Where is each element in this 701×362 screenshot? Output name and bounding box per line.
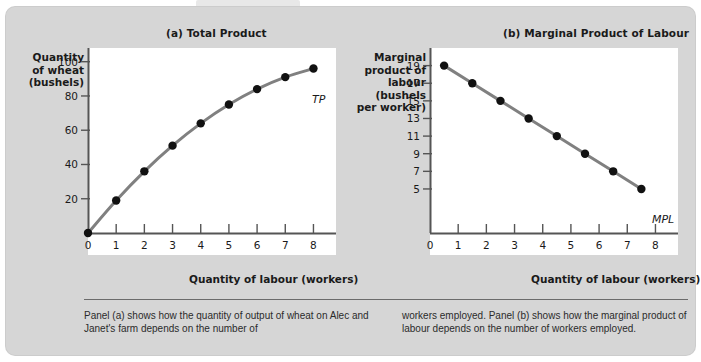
panel-a-y-tick-label: 100 (50, 56, 78, 68)
panel-a-x-tick-label: 5 (226, 239, 233, 251)
panel-a-series-label-tp: TP (312, 93, 325, 106)
panel-a-title: (a) Total Product (166, 27, 267, 39)
panel-a-y-tick-label: 20 (50, 193, 78, 205)
panel-b-y-tick-label: 15 (392, 95, 420, 107)
caption-column-right: workers employed. Panel (b) shows how th… (402, 309, 701, 335)
panel-a-x-axis-title: Quantity of labour (workers) (189, 273, 358, 285)
panel-b-plot-area (430, 48, 678, 255)
caption-column-left: Panel (a) shows how the quantity of outp… (84, 309, 384, 335)
figure-card: (a) Total Product Quantity of wheat (bus… (6, 7, 695, 355)
panel-a-y-tick-label: 60 (50, 124, 78, 136)
panel-b-x-tick-label: 5 (568, 239, 575, 251)
panel-b-x-tick-label: 7 (624, 239, 631, 251)
panel-a-y-tick-label: 80 (50, 90, 78, 102)
panel-b-y-tick-label: 17 (392, 77, 420, 89)
panel-b-y-tick-label: 5 (392, 183, 420, 195)
panel-b-x-tick-label: 1 (455, 239, 462, 251)
panel-a-x-tick-label: 3 (169, 239, 176, 251)
panel-a-y-tick-label: 40 (50, 158, 78, 170)
panel-a-x-tick-label: 0 (85, 239, 92, 251)
panel-b-chart-svg (430, 48, 678, 255)
panel-b-x-axis-title: Quantity of labour (workers) (531, 273, 700, 285)
panel-b-title: (b) Marginal Product of Labour (503, 27, 689, 39)
panel-b-y-tick-label: 9 (392, 148, 420, 160)
panel-b-series-label-mpl: MPL (652, 213, 674, 226)
panel-a-x-tick-label: 6 (254, 239, 261, 251)
panel-a-x-tick-label: 8 (310, 239, 317, 251)
panel-b-x-tick-label: 2 (483, 239, 490, 251)
panel-a-x-tick-label: 7 (282, 239, 289, 251)
panel-a-plot-area (88, 48, 336, 255)
panel-a-x-tick-label: 2 (141, 239, 148, 251)
panel-b-x-tick-label: 0 (427, 239, 434, 251)
figure-root: (a) Total Product Quantity of wheat (bus… (0, 0, 701, 362)
panel-b-x-tick-label: 3 (511, 239, 518, 251)
panel-a-x-tick-label: 4 (197, 239, 204, 251)
caption-divider (84, 299, 688, 300)
panel-b-x-tick-label: 4 (539, 239, 546, 251)
panel-a-x-tick-label: 1 (113, 239, 120, 251)
panel-b-x-tick-label: 6 (596, 239, 603, 251)
panel-b-y-tick-label: 7 (392, 165, 420, 177)
panel-b-y-tick-label: 11 (392, 130, 420, 142)
panel-a-chart-svg (88, 48, 336, 255)
panel-b-y-tick-label: 19 (392, 60, 420, 72)
panel-b-y-tick-label: 13 (392, 112, 420, 124)
panel-b-x-tick-label: 8 (652, 239, 659, 251)
